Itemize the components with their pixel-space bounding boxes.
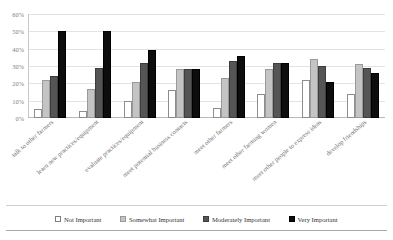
bar bbox=[273, 63, 281, 118]
y-axis-tick-6: 60% bbox=[12, 11, 24, 18]
bar bbox=[79, 111, 87, 118]
plot-area bbox=[28, 14, 385, 118]
bar bbox=[326, 82, 334, 118]
bar bbox=[363, 68, 371, 118]
legend-item[interactable]: Very Important bbox=[289, 216, 338, 223]
bar-chart: 0%10%20%30%40%50%60% talk to other farme… bbox=[0, 0, 393, 240]
legend-label: Very Important bbox=[297, 216, 337, 223]
x-axis-tick-label: meet other farmers bbox=[192, 118, 234, 156]
bar bbox=[103, 31, 111, 118]
bar bbox=[168, 90, 176, 118]
bar-group bbox=[28, 14, 73, 118]
bar bbox=[265, 69, 273, 118]
bar bbox=[213, 108, 221, 118]
legend-swatch-icon bbox=[120, 216, 126, 222]
legend-label: Not Important bbox=[64, 216, 102, 223]
bar bbox=[124, 101, 132, 118]
bar bbox=[42, 80, 50, 118]
y-axis-tick-2: 20% bbox=[12, 80, 24, 87]
legend-divider-bottom bbox=[6, 230, 387, 231]
bar bbox=[347, 94, 355, 118]
legend-swatch-icon bbox=[55, 216, 61, 222]
y-axis-tick-3: 30% bbox=[12, 63, 24, 70]
x-axis-tick-label: develop friendships bbox=[324, 118, 367, 157]
bar bbox=[95, 68, 103, 118]
y-axis-tick-5: 50% bbox=[12, 28, 24, 35]
bar-groups bbox=[28, 14, 385, 118]
bar bbox=[310, 59, 318, 118]
y-axis-tick-1: 10% bbox=[12, 97, 24, 104]
bar bbox=[229, 61, 237, 118]
legend-item[interactable]: Not Important bbox=[55, 216, 101, 223]
bar bbox=[132, 82, 140, 118]
bar bbox=[318, 66, 326, 118]
legend-swatch-icon bbox=[203, 216, 209, 222]
bar bbox=[237, 56, 245, 118]
y-axis-tick-4: 40% bbox=[12, 45, 24, 52]
x-axis-tick-label: talk to other farmers bbox=[10, 118, 55, 158]
bar bbox=[58, 31, 66, 118]
bar bbox=[192, 69, 200, 118]
bar bbox=[140, 63, 148, 118]
bar bbox=[176, 69, 184, 118]
bar-group bbox=[73, 14, 118, 118]
legend-divider-top bbox=[6, 205, 387, 206]
x-axis-labels: talk to other farmerslearn new practices… bbox=[28, 118, 385, 200]
bar bbox=[302, 80, 310, 118]
bar bbox=[371, 73, 379, 118]
bar bbox=[34, 109, 42, 118]
y-axis-labels: 0%10%20%30%40%50%60% bbox=[0, 14, 26, 118]
bar-group bbox=[117, 14, 162, 118]
bar bbox=[281, 63, 289, 118]
bar bbox=[87, 89, 95, 118]
y-axis-tick-0: 0% bbox=[15, 115, 24, 122]
legend-item[interactable]: Somewhat Important bbox=[120, 216, 184, 223]
chart-legend: Not ImportantSomewhat ImportantModeratel… bbox=[0, 210, 393, 228]
bar bbox=[50, 76, 58, 118]
bar-group bbox=[251, 14, 296, 118]
bar-group bbox=[296, 14, 341, 118]
bar bbox=[257, 94, 265, 118]
legend-label: Moderately Important bbox=[212, 216, 270, 223]
legend-item[interactable]: Moderately Important bbox=[203, 216, 270, 223]
bar-group bbox=[207, 14, 252, 118]
bar bbox=[221, 78, 229, 118]
legend-swatch-icon bbox=[289, 216, 295, 222]
bar bbox=[184, 69, 192, 118]
legend-label: Somewhat Important bbox=[129, 216, 185, 223]
bar bbox=[148, 50, 156, 118]
bar bbox=[355, 64, 363, 118]
bar-group bbox=[162, 14, 207, 118]
bar-group bbox=[340, 14, 385, 118]
